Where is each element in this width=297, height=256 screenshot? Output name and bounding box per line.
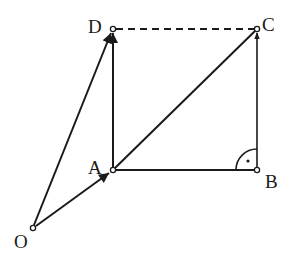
vector-diagram xyxy=(0,0,297,256)
right-angle-dot xyxy=(246,159,249,162)
point-a xyxy=(110,167,115,172)
label-c: C xyxy=(262,15,275,34)
point-c xyxy=(254,26,259,31)
label-o: O xyxy=(14,232,28,251)
vector-od xyxy=(34,33,111,225)
vector-oa xyxy=(36,173,109,226)
label-b: B xyxy=(265,172,278,191)
segment-ac xyxy=(115,31,255,168)
label-d: D xyxy=(88,17,102,36)
right-angle-arc xyxy=(236,149,257,170)
point-o xyxy=(30,225,35,230)
point-d xyxy=(110,26,115,31)
label-a: A xyxy=(88,158,102,177)
point-b xyxy=(254,167,259,172)
